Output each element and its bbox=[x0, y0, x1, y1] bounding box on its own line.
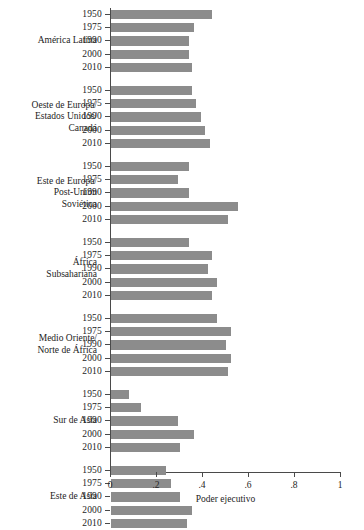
year-tick-label: 2000 bbox=[68, 48, 102, 61]
bar bbox=[111, 175, 178, 184]
bar bbox=[111, 23, 194, 32]
bar bbox=[111, 506, 192, 515]
year-tick-label: 1950 bbox=[68, 388, 102, 401]
year-tick-label: 1975 bbox=[68, 21, 102, 34]
chart-row: 1990 bbox=[0, 186, 364, 199]
y-axis-tick bbox=[105, 192, 110, 193]
chart-row: 2000 bbox=[0, 48, 364, 61]
bar bbox=[111, 188, 189, 197]
y-axis-tick bbox=[105, 103, 110, 104]
year-tick-label: 1990 bbox=[68, 338, 102, 351]
y-axis-tick bbox=[105, 318, 110, 319]
y-axis-tick bbox=[105, 206, 110, 207]
chart-row: 1950 bbox=[0, 388, 364, 401]
bar bbox=[111, 519, 187, 528]
bar bbox=[111, 264, 208, 273]
chart-row: 2010 bbox=[0, 61, 364, 74]
y-axis-tick bbox=[105, 14, 110, 15]
year-tick-label: 2010 bbox=[68, 517, 102, 530]
chart-row: 2000 bbox=[0, 428, 364, 441]
y-axis-tick bbox=[105, 166, 110, 167]
bar bbox=[111, 327, 231, 336]
year-tick-label: 1975 bbox=[68, 249, 102, 262]
y-axis-tick bbox=[105, 447, 110, 448]
chart-row: 2000 bbox=[0, 200, 364, 213]
chart-row: 2010 bbox=[0, 517, 364, 530]
bar bbox=[111, 10, 212, 19]
y-axis-tick bbox=[105, 143, 110, 144]
chart-row: 1990 bbox=[0, 414, 364, 427]
year-tick-label: 1950 bbox=[68, 464, 102, 477]
x-axis-tick-label: 0 bbox=[95, 480, 125, 490]
x-axis-tick-label: .8 bbox=[279, 480, 309, 490]
chart-row: 1975 bbox=[0, 21, 364, 34]
chart-row: 1990 bbox=[0, 34, 364, 47]
bar bbox=[111, 99, 196, 108]
bar bbox=[111, 139, 210, 148]
bar bbox=[111, 50, 189, 59]
year-tick-label: 1975 bbox=[68, 173, 102, 186]
bar bbox=[111, 291, 212, 300]
year-tick-label: 2010 bbox=[68, 289, 102, 302]
chart-row: 2000 bbox=[0, 352, 364, 365]
bar bbox=[111, 36, 189, 45]
y-axis-tick bbox=[105, 407, 110, 408]
x-axis-title: Poder ejecutivo bbox=[110, 494, 341, 504]
chart-row: 2000 bbox=[0, 504, 364, 517]
x-axis-tick-label: 1 bbox=[325, 480, 355, 490]
y-axis-tick bbox=[105, 420, 110, 421]
chart-row: 1975 bbox=[0, 249, 364, 262]
chart-row: 1975 bbox=[0, 325, 364, 338]
y-axis-tick bbox=[105, 344, 110, 345]
year-tick-label: 1975 bbox=[68, 97, 102, 110]
bar bbox=[111, 403, 141, 412]
chart-row: 1950 bbox=[0, 464, 364, 477]
year-tick-label: 2010 bbox=[68, 61, 102, 74]
y-axis-tick bbox=[105, 331, 110, 332]
y-axis-tick bbox=[105, 510, 110, 511]
chart-row: 2010 bbox=[0, 441, 364, 454]
year-tick-label: 2010 bbox=[68, 137, 102, 150]
year-tick-label: 1990 bbox=[68, 262, 102, 275]
bar bbox=[111, 238, 189, 247]
year-tick-label: 1990 bbox=[68, 414, 102, 427]
chart-row: 2010 bbox=[0, 289, 364, 302]
x-axis-tick bbox=[340, 472, 341, 477]
bar bbox=[111, 63, 192, 72]
y-axis-tick bbox=[105, 371, 110, 372]
year-tick-label: 1990 bbox=[68, 34, 102, 47]
chart-row: 1975 bbox=[0, 97, 364, 110]
x-axis-tick bbox=[248, 472, 249, 477]
chart-row: 2010 bbox=[0, 137, 364, 150]
y-axis-tick bbox=[105, 40, 110, 41]
y-axis-tick bbox=[105, 295, 110, 296]
y-axis-tick bbox=[105, 358, 110, 359]
bar bbox=[111, 251, 212, 260]
year-tick-label: 1990 bbox=[68, 110, 102, 123]
year-tick-label: 2000 bbox=[68, 124, 102, 137]
y-axis-tick bbox=[105, 116, 110, 117]
x-axis-tick bbox=[156, 472, 157, 477]
bar bbox=[111, 278, 217, 287]
x-axis-tick-label: .2 bbox=[141, 480, 171, 490]
year-tick-label: 1975 bbox=[68, 401, 102, 414]
y-axis-tick bbox=[105, 67, 110, 68]
y-axis-tick bbox=[105, 90, 110, 91]
y-axis-tick bbox=[105, 523, 110, 524]
bar bbox=[111, 162, 189, 171]
year-tick-label: 1950 bbox=[68, 84, 102, 97]
bar bbox=[111, 367, 228, 376]
year-tick-label: 1950 bbox=[68, 8, 102, 21]
y-axis-tick bbox=[105, 130, 110, 131]
year-tick-label: 2000 bbox=[68, 276, 102, 289]
x-axis-tick bbox=[202, 472, 203, 477]
year-tick-label: 2000 bbox=[68, 352, 102, 365]
chart-row: 1975 bbox=[0, 477, 364, 490]
chart-row: 1950 bbox=[0, 312, 364, 325]
bar bbox=[111, 202, 238, 211]
chart-row: 2010 bbox=[0, 213, 364, 226]
chart-row: 1990 bbox=[0, 262, 364, 275]
bar bbox=[111, 416, 178, 425]
chart-row: 1950 bbox=[0, 8, 364, 21]
